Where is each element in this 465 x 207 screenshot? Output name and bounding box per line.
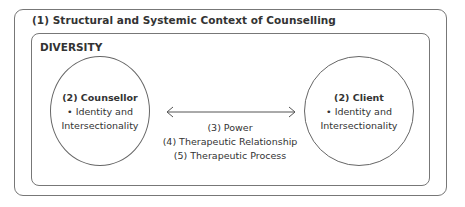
client-circle: (2) Client • Identity and Intersectional… — [304, 56, 414, 166]
client-bullet: • Identity and — [326, 105, 392, 119]
power-label: (3) Power — [160, 121, 300, 135]
counsellor-bullet-cont: Intersectionality — [62, 119, 139, 133]
relationship-labels: (3) Power (4) Therapeutic Relationship (… — [160, 121, 300, 163]
client-bullet-cont: Intersectionality — [321, 119, 398, 133]
therapeutic-process-label: (5) Therapeutic Process — [160, 149, 300, 163]
double-headed-arrow-icon — [165, 106, 297, 118]
diversity-title: DIVERSITY — [40, 41, 102, 53]
structural-context-title: (1) Structural and Systemic Context of C… — [32, 14, 336, 26]
counsellor-circle: (2) Counsellor • Identity and Intersecti… — [50, 56, 150, 166]
client-title: (2) Client — [334, 90, 384, 105]
counsellor-title: (2) Counsellor — [62, 90, 137, 105]
therapeutic-relationship-label: (4) Therapeutic Relationship — [160, 135, 300, 149]
counsellor-bullet: • Identity and — [67, 105, 133, 119]
